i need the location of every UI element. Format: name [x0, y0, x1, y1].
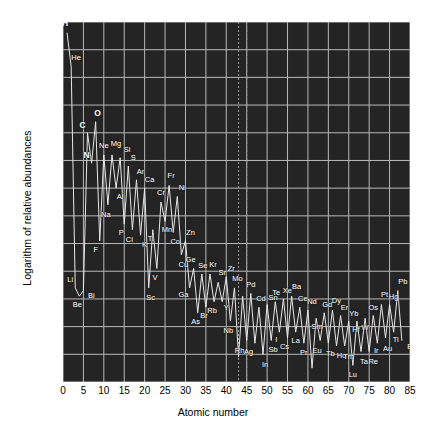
element-label-eu: Eu	[313, 347, 322, 355]
element-label-w: W	[362, 324, 369, 332]
element-label-pb: Pb	[398, 278, 407, 286]
x-tick-label: 5	[81, 385, 87, 396]
element-label-mg: Mg	[111, 140, 121, 148]
element-label-p: P	[119, 229, 124, 237]
x-tick-label: 25	[159, 385, 170, 396]
element-label-rh: Rh	[235, 347, 245, 355]
element-label-ce: Ce	[298, 295, 308, 303]
element-label-fr: Fr	[168, 172, 175, 180]
plot-area: HHeLiBeBiCNOFNeNaMgAlSiPSClArKCaScTiVCrM…	[63, 22, 410, 382]
element-label-mn: Mn	[162, 226, 172, 234]
element-label-pr: Pr	[300, 349, 308, 357]
element-label-si: Si	[124, 146, 131, 154]
element-label-te: Te	[272, 289, 280, 297]
element-label-ar: Ar	[137, 168, 145, 176]
y-axis-title: Logarithm of relative abundances	[21, 93, 33, 323]
x-tick-label: 0	[60, 385, 66, 396]
element-label-b: B	[407, 343, 410, 351]
element-label-co: Co	[170, 238, 180, 246]
x-axis-title: Atomic number	[0, 406, 426, 418]
element-label-c: C	[79, 121, 85, 129]
element-label-au: Au	[383, 345, 392, 353]
element-label-y: Y	[224, 304, 229, 312]
x-tick-label: 70	[343, 385, 354, 396]
element-label-ne: Ne	[99, 142, 109, 150]
element-label-cr: Cr	[157, 189, 165, 197]
element-label-al: Al	[117, 193, 124, 201]
element-label-n: N	[83, 151, 89, 159]
element-label-re: Re	[368, 358, 378, 366]
element-label-bi: Bi	[88, 292, 95, 300]
element-label-pd: Pd	[246, 281, 255, 289]
element-label-hf: Hf	[352, 326, 360, 334]
element-label-h: H	[63, 22, 68, 27]
x-tick-label: 80	[384, 385, 395, 396]
element-label-ga: Ga	[179, 291, 189, 299]
element-label-mo: Mo	[232, 275, 242, 283]
x-tick-label: 60	[302, 385, 313, 396]
element-label-cl: Cl	[126, 236, 133, 244]
element-label-nb: Nb	[224, 327, 234, 335]
element-label-ir: Ir	[374, 347, 379, 355]
x-tick-label: 45	[241, 385, 252, 396]
element-label-ti: Ti	[148, 235, 154, 243]
chart-figure: HHeLiBeBiCNOFNeNaMgAlSiPSClArKCaScTiVCrM…	[0, 0, 426, 434]
element-label-rb: Rb	[207, 307, 217, 315]
x-tick-label: 50	[262, 385, 273, 396]
element-label-as: As	[191, 318, 200, 326]
element-label-os: Os	[368, 304, 378, 312]
element-label-ca: Ca	[145, 176, 155, 184]
x-tick-label: 30	[180, 385, 191, 396]
element-label-in: In	[262, 361, 268, 369]
element-label-xe: Xe	[283, 287, 292, 295]
element-label-pt: Pt	[381, 291, 388, 299]
element-label-sr: Sr	[218, 269, 226, 277]
element-label-hg: Hg	[389, 293, 399, 301]
element-label-sm: Sm	[311, 323, 322, 331]
x-tick-label: 10	[98, 385, 109, 396]
x-tick-label: 20	[139, 385, 150, 396]
element-label-na: Na	[101, 211, 111, 219]
element-label-kr: Kr	[209, 261, 217, 269]
element-label-gd: Gd	[322, 301, 332, 309]
x-tick-label: 65	[323, 385, 334, 396]
element-label-i: I	[275, 336, 277, 344]
element-label-o: O	[94, 109, 101, 117]
element-label-dy: Dy	[332, 297, 341, 305]
x-tick-label: 75	[364, 385, 375, 396]
element-label-he: He	[71, 54, 81, 62]
element-label-layer: HHeLiBeBiCNOFNeNaMgAlSiPSClArKCaScTiVCrM…	[63, 22, 410, 382]
element-label-ag: Ag	[244, 348, 253, 356]
element-label-tm: Tm	[343, 353, 354, 361]
element-label-s: S	[131, 154, 136, 162]
element-label-cs: Cs	[280, 343, 289, 351]
element-label-be: Be	[73, 301, 82, 309]
element-label-sc: Sc	[146, 294, 155, 302]
element-label-v: V	[152, 274, 157, 282]
x-tick-label: 40	[221, 385, 232, 396]
element-label-ba: Ba	[292, 283, 301, 291]
x-tick-label: 85	[404, 385, 415, 396]
element-label-er: Er	[341, 304, 349, 312]
element-label-f: F	[93, 246, 98, 254]
element-label-zr: Zr	[228, 265, 235, 273]
element-label-sb: Sb	[269, 346, 278, 354]
element-label-ni: Ni	[179, 184, 186, 192]
element-label-se: Se	[198, 262, 207, 270]
element-label-lu: Lu	[349, 371, 357, 379]
element-label-nd: Nd	[307, 298, 317, 306]
x-tick-label: 15	[119, 385, 130, 396]
element-label-cd: Cd	[256, 295, 266, 303]
element-label-ta: Ta	[360, 358, 368, 366]
x-tick-label: 55	[282, 385, 293, 396]
element-label-la: La	[292, 337, 300, 345]
element-label-yb: Yb	[349, 310, 358, 318]
element-label-tb: Tb	[326, 350, 335, 358]
element-label-zn: Zn	[186, 229, 195, 237]
element-label-k: K	[142, 241, 147, 249]
element-label-ti: Ti	[393, 336, 399, 344]
element-label-ge: Ge	[186, 256, 196, 264]
element-label-li: Li	[67, 276, 73, 284]
x-tick-label: 35	[200, 385, 211, 396]
